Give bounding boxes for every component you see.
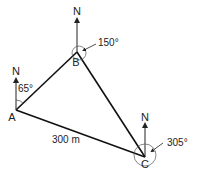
bearing-c-label: 305° — [167, 137, 188, 148]
point-c-label: C — [141, 158, 149, 170]
bearings-diagram: N N N 65° 150° 305° A B C 300 m — [0, 0, 201, 182]
north-label-a: N — [12, 65, 20, 77]
triangle — [16, 52, 145, 157]
side-ab — [16, 52, 77, 110]
north-label-c: N — [141, 111, 149, 123]
north-label-b: N — [73, 5, 81, 17]
point-b-label: B — [72, 56, 79, 68]
pointer-arrow-b — [84, 44, 96, 50]
side-ac — [16, 110, 145, 157]
side-bc — [77, 52, 145, 157]
bearing-a-label: 65° — [18, 83, 33, 94]
point-a-label: A — [8, 111, 16, 123]
bearing-b-label: 150° — [98, 37, 119, 48]
pointer-arrow-c — [152, 143, 163, 151]
side-ac-length: 300 m — [52, 134, 80, 145]
